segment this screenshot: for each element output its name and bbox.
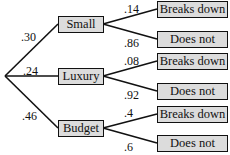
- node-budget: Budget: [58, 120, 104, 137]
- prob-luxury: .24: [23, 65, 38, 77]
- prob-budget: .46: [22, 110, 37, 122]
- node-small: Small: [58, 16, 104, 33]
- prob-small-not: .86: [124, 37, 139, 49]
- prob-luxury-breaks: .08: [124, 55, 139, 67]
- node-luxury-breaks-down: Breaks down: [157, 53, 228, 70]
- prob-budget-not: .6: [124, 141, 133, 153]
- node-small-breaks-down: Breaks down: [157, 1, 228, 18]
- node-luxury: Luxury: [58, 68, 104, 85]
- prob-small-breaks: .14: [124, 3, 139, 15]
- node-budget-does-not: Does not: [157, 135, 228, 152]
- node-luxury-does-not: Does not: [157, 83, 228, 100]
- prob-luxury-not: .92: [124, 89, 139, 101]
- prob-budget-breaks: .4: [124, 107, 133, 119]
- node-budget-breaks-down: Breaks down: [157, 106, 228, 123]
- prob-small: .30: [21, 31, 36, 43]
- node-small-does-not: Does not: [157, 31, 228, 48]
